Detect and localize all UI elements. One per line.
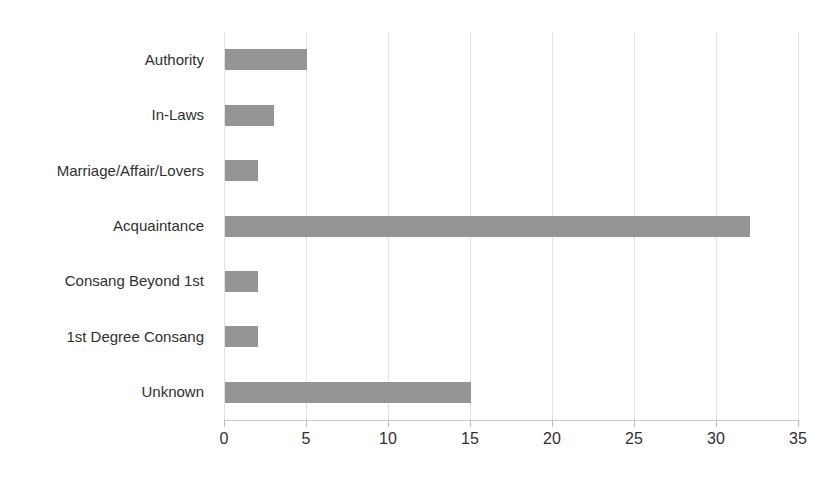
x-tick-mark [388, 420, 389, 427]
bar[interactable] [225, 105, 274, 126]
x-tick-label: 15 [461, 429, 479, 449]
y-axis-label: Unknown [141, 383, 204, 401]
x-tick-label: 20 [543, 429, 561, 449]
x-tick-mark [552, 420, 553, 427]
gridline [798, 32, 799, 420]
bar[interactable] [225, 160, 258, 181]
y-axis-label: 1st Degree Consang [66, 328, 204, 346]
bar[interactable] [225, 271, 258, 292]
x-tick-mark [716, 420, 717, 427]
y-axis-label: Authority [145, 51, 204, 69]
bar-chart: AuthorityIn-LawsMarriage/Affair/LoversAc… [0, 0, 836, 482]
x-tick-mark [306, 420, 307, 427]
x-tick-label: 0 [220, 429, 229, 449]
x-tick-label: 5 [302, 429, 311, 449]
bar[interactable] [225, 382, 471, 403]
x-tick-label: 35 [789, 429, 807, 449]
y-axis-label: Consang Beyond 1st [65, 272, 204, 290]
y-axis-category-labels: AuthorityIn-LawsMarriage/Affair/LoversAc… [0, 32, 214, 420]
bar[interactable] [225, 49, 307, 70]
x-tick-mark [224, 420, 225, 427]
x-tick-label: 10 [379, 429, 397, 449]
chart-title-cropped [150, 0, 570, 3]
x-tick-mark [634, 420, 635, 427]
x-tick-mark [470, 420, 471, 427]
x-tick-label: 30 [707, 429, 725, 449]
y-axis-label: In-Laws [151, 106, 204, 124]
bar[interactable] [225, 216, 750, 237]
x-tick-mark [798, 420, 799, 427]
plot-area [224, 32, 798, 420]
bar[interactable] [225, 326, 258, 347]
y-axis-label: Marriage/Affair/Lovers [57, 162, 204, 180]
y-axis-label: Acquaintance [113, 217, 204, 235]
x-axis-ticks: 05101520253035 [224, 420, 804, 480]
x-tick-label: 25 [625, 429, 643, 449]
